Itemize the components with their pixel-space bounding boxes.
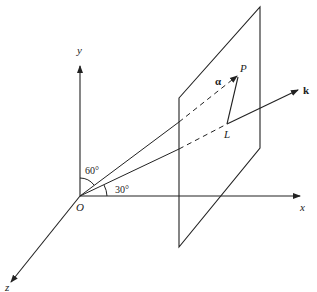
vector-k	[227, 90, 298, 124]
line-op-solid	[80, 122, 179, 196]
alpha-label: α	[215, 75, 222, 87]
z-axis-label: z	[4, 281, 10, 292]
line-ol-dashed	[179, 124, 227, 149]
x-axis-label: x	[299, 201, 305, 213]
vector-alpha	[179, 76, 237, 122]
angle-arc-30	[104, 185, 107, 196]
y-axis-label: y	[76, 44, 82, 56]
angle-60-label: 60°	[85, 165, 99, 176]
segment-lp	[227, 77, 238, 124]
geometry-figure: y x z O P L α k 60° 30°	[0, 0, 317, 292]
angle-arc-60	[80, 178, 94, 185]
angle-30-label: 30°	[115, 184, 129, 195]
origin-label: O	[76, 201, 84, 213]
z-axis	[11, 196, 80, 282]
plane	[179, 7, 260, 247]
k-label: k	[303, 84, 310, 96]
diagram-canvas: y x z O P L α k 60° 30°	[0, 0, 317, 292]
point-p-label: P	[239, 62, 247, 74]
point-l-label: L	[223, 128, 230, 140]
